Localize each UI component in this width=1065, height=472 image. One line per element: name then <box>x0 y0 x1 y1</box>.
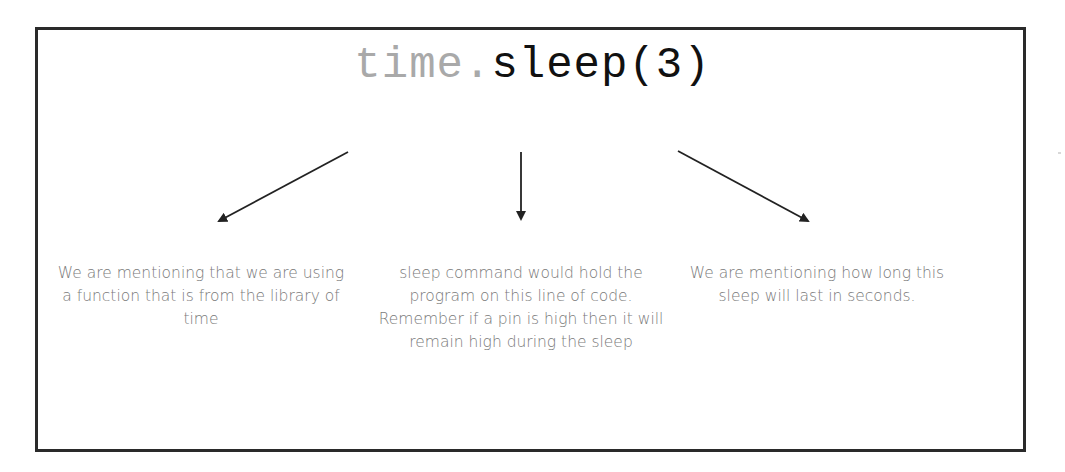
caption-module: We are mentioning that we are using a fu… <box>56 262 346 331</box>
arrow-right-icon <box>678 151 808 221</box>
stray-mark <box>1058 152 1061 154</box>
arrow-left-icon <box>219 152 348 221</box>
caption-function: sleep command would hold the program on … <box>366 262 676 354</box>
caption-argument: We are mentioning how long this sleep wi… <box>684 262 950 308</box>
arrows-layer <box>0 0 1065 472</box>
